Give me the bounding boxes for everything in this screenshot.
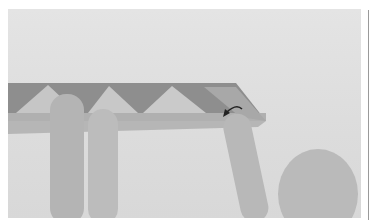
origami-scene xyxy=(8,9,361,218)
origami-photo xyxy=(8,9,361,218)
finger-index xyxy=(50,94,84,218)
hand-right xyxy=(278,149,358,218)
finger-middle xyxy=(88,109,118,218)
page-divider xyxy=(368,10,369,220)
finger-right xyxy=(221,111,271,218)
